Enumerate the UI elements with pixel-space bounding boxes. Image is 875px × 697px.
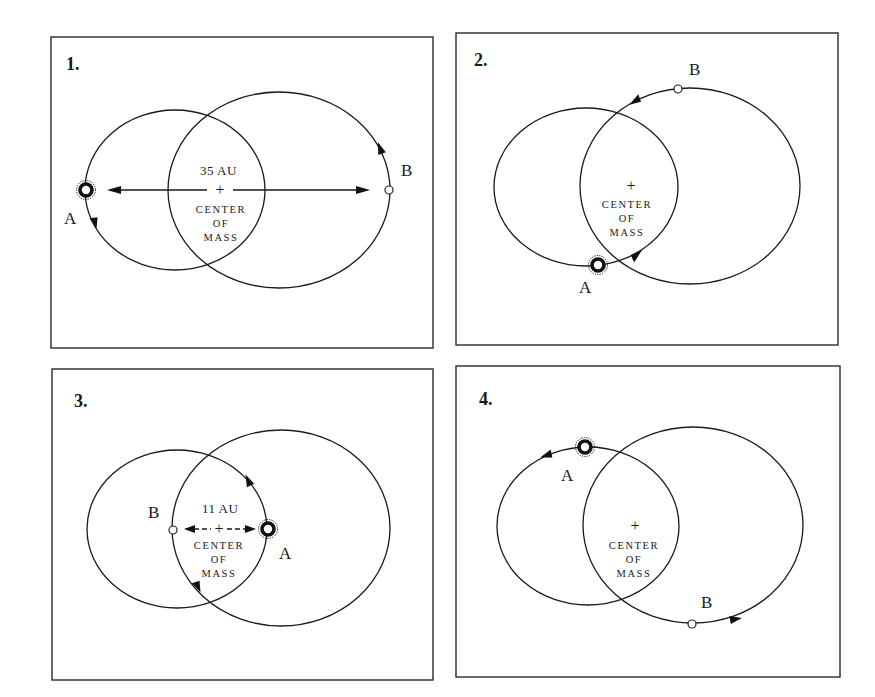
orbit-a [494, 108, 678, 266]
star-b-icon [674, 85, 682, 93]
star-a-label: A [579, 278, 592, 297]
binary-orbit-diagram: 1. A B 35 AU + CENTER OF MASS 2. [0, 0, 875, 697]
center-of-mass-label-line-3: MASS [617, 568, 652, 579]
panel-frame [51, 37, 433, 348]
star-a-label: A [279, 544, 292, 563]
center-of-mass-marker: + [626, 177, 635, 194]
panel-number: 4. [479, 389, 493, 409]
star-b-icon [169, 526, 177, 534]
orbit-a [172, 430, 390, 626]
panel-frame [456, 33, 838, 345]
star-a-icon [80, 184, 92, 196]
separation-label: 35 AU [200, 163, 237, 178]
center-of-mass-marker: + [214, 520, 223, 537]
panel-number: 3. [74, 391, 88, 411]
center-of-mass-marker: + [215, 181, 224, 198]
center-of-mass-label-line-3: MASS [202, 568, 237, 579]
center-of-mass-label-line-1: CENTER [196, 204, 246, 215]
orbit-b [580, 88, 800, 284]
star-a-icon [579, 441, 591, 453]
center-of-mass-label-line-2: OF [211, 554, 228, 565]
panel-4: 4. A B + CENTER OF MASS [456, 366, 840, 677]
star-b-icon [385, 186, 393, 194]
center-of-mass-label-line-1: CENTER [194, 540, 244, 551]
star-a-icon [592, 259, 604, 271]
star-b-label: B [701, 593, 712, 612]
star-b-label: B [401, 161, 412, 180]
panel-frame [52, 369, 433, 680]
star-b-icon [688, 620, 696, 628]
panel-frame [456, 366, 840, 677]
orbit-a [497, 447, 679, 605]
panel-number: 2. [474, 50, 488, 70]
center-of-mass-label-line-3: MASS [610, 227, 645, 238]
center-of-mass-label-line-1: CENTER [602, 199, 652, 210]
star-b-label: B [689, 60, 700, 79]
panel-number: 1. [66, 54, 80, 74]
center-of-mass-label-line-2: OF [213, 218, 230, 229]
arrowhead-right-icon [356, 186, 370, 194]
center-of-mass-label-line-2: OF [619, 213, 636, 224]
center-of-mass-label-line-1: CENTER [609, 540, 659, 551]
separation-label: 11 AU [202, 501, 238, 516]
center-of-mass-marker: + [630, 517, 639, 534]
arrowhead-left-icon [107, 186, 121, 194]
arrowhead-left-icon [184, 525, 195, 533]
star-b-label: B [148, 503, 159, 522]
center-of-mass-label-line-3: MASS [204, 232, 239, 243]
panel-2: 2. B A + CENTER OF MASS [456, 33, 838, 345]
panel-1: 1. A B 35 AU + CENTER OF MASS [51, 37, 433, 348]
center-of-mass-label-line-2: OF [626, 554, 643, 565]
arrowhead-right-icon [245, 525, 256, 533]
star-a-icon [262, 523, 274, 535]
panel-3: 3. B A 11 AU + CENTER OF MASS [52, 369, 433, 680]
star-a-label: A [561, 466, 574, 485]
star-a-label: A [64, 209, 77, 228]
orbit-b [583, 427, 803, 623]
orbit-direction-arrow-a-icon [540, 449, 553, 458]
